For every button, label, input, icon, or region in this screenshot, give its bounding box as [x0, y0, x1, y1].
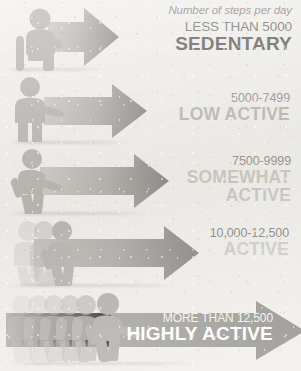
tier-somewhat-active-category-line2: ACTIVE [187, 186, 291, 204]
tier-highly-active-labels: MORE THAN 12,500 HIGHLY ACTIVE [126, 312, 273, 344]
tier-low-active-labels: 5000-7499 LOW ACTIVE [179, 92, 290, 123]
walking-person-icon [38, 220, 104, 286]
tier-somewhat-active-category-line1: SOMEWHAT [187, 168, 291, 186]
tier-sedentary-category: SEDENTARY [175, 34, 292, 54]
tier-sedentary-labels: LESS THAN 5000 SEDENTARY [175, 20, 292, 54]
tier-active-labels: 10,000-12,500 ACTIVE [210, 227, 289, 258]
tier-active-category: ACTIVE [210, 240, 289, 258]
tier-low-active-category: LOW ACTIVE [179, 105, 290, 123]
infographic-title: Number of steps per day [168, 4, 292, 16]
ground-shadow [6, 362, 196, 365]
tier-highly-active-category: HIGHLY ACTIVE [126, 324, 273, 344]
standing-person-icon [10, 76, 72, 142]
tier-sedentary-steps: LESS THAN 5000 [175, 20, 292, 34]
steps-per-day-infographic: Number of steps per day [0, 0, 301, 371]
walking-person-icon [8, 148, 74, 214]
seated-person-icon [6, 6, 80, 72]
tier-somewhat-active-labels: 7500-9999 SOMEWHAT ACTIVE [187, 155, 291, 204]
